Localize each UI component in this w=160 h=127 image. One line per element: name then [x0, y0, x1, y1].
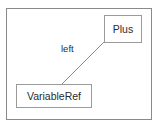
node-plus-label: Plus: [113, 24, 133, 35]
node-variableref-label: VariableRef: [27, 91, 81, 102]
diagram-canvas: Plus VariableRef left: [0, 0, 160, 127]
edge-label-left: left: [61, 44, 74, 54]
node-plus[interactable]: Plus: [104, 15, 142, 43]
node-variableref[interactable]: VariableRef: [16, 84, 92, 108]
